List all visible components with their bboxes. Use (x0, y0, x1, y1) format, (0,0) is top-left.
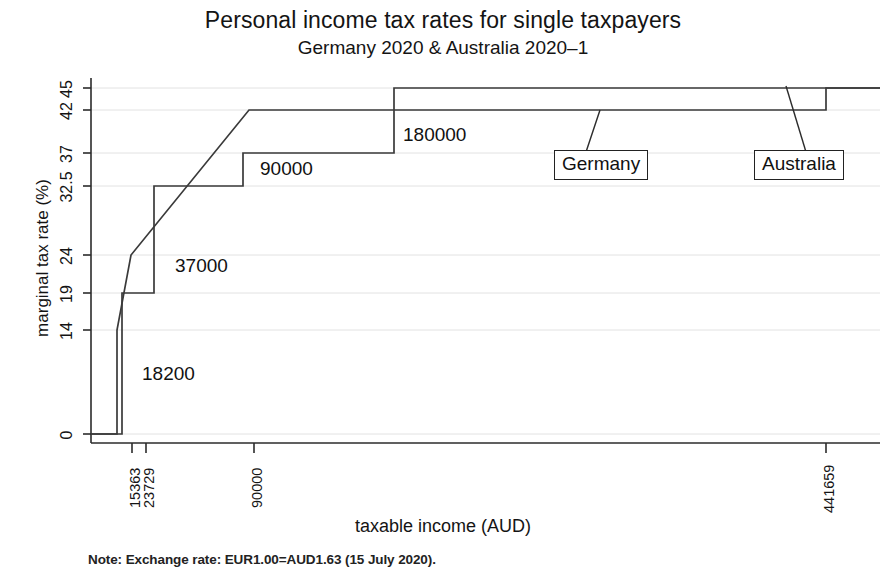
x-axis-title: taxable income (AUD) (0, 516, 886, 537)
y-axis (83, 78, 91, 443)
leader-line-germany-2 (586, 110, 600, 152)
xtick-label-23729: 23729 (141, 468, 157, 508)
legend-label-australia[interactable]: Australia (754, 150, 844, 180)
xtick-label-90000: 90000 (249, 468, 265, 508)
y-axis-title: marginal tax rate (%) (33, 143, 53, 373)
annotation-37000: 37000 (175, 255, 228, 277)
x-axis (91, 443, 880, 453)
ytick-label-0: 0 (58, 405, 76, 465)
chart-note: Note: Exchange rate: EUR1.00=AUD1.63 (15… (88, 552, 436, 567)
chart-screenshot: Personal income tax rates for single tax… (0, 0, 886, 584)
ytick-label-14: 14 (58, 301, 76, 361)
annotation-90000: 90000 (260, 158, 313, 180)
leader-line-australia (786, 86, 806, 152)
xtick-label-441659: 441659 (821, 465, 837, 513)
annotation-18200: 18200 (142, 363, 195, 385)
legend-label-germany[interactable]: Germany (554, 150, 648, 180)
annotation-180000: 180000 (403, 124, 466, 146)
ytick-label-32-5: 32.5 (58, 154, 76, 220)
